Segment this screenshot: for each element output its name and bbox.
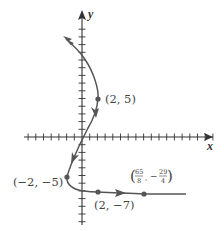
y-axis <box>78 10 86 225</box>
direction-arrow-icon <box>91 107 99 118</box>
y-axis-label: y <box>86 7 94 21</box>
label-frac2-den: 4 <box>161 177 165 185</box>
label-close-paren: ) <box>167 167 173 185</box>
parametric-curve-graph: y x (2, 5) (−2, −5) (2, −7) ( 65 8 , − 2… <box>0 0 224 231</box>
label-point-neg2-neg5: (−2, −5) <box>13 175 63 189</box>
point-2-5 <box>95 96 100 101</box>
label-minus: − <box>150 171 158 181</box>
label-point-65over8-neg29over4: ( 65 8 , − 29 4 ) <box>130 167 173 185</box>
label-point-2-5: (2, 5) <box>105 92 136 106</box>
point-65over8-neg29over4 <box>141 191 146 196</box>
x-axis-label: x <box>206 139 213 153</box>
point-neg2-neg5 <box>64 174 69 179</box>
point-2-neg7 <box>95 189 100 194</box>
x-axis <box>24 133 213 141</box>
label-frac1-den: 8 <box>137 177 141 185</box>
label-comma: , <box>145 174 147 182</box>
label-point-2-neg7: (2, −7) <box>94 198 135 212</box>
label-frac1-num: 65 <box>135 168 143 176</box>
curve-start-arrow-icon <box>67 40 74 48</box>
